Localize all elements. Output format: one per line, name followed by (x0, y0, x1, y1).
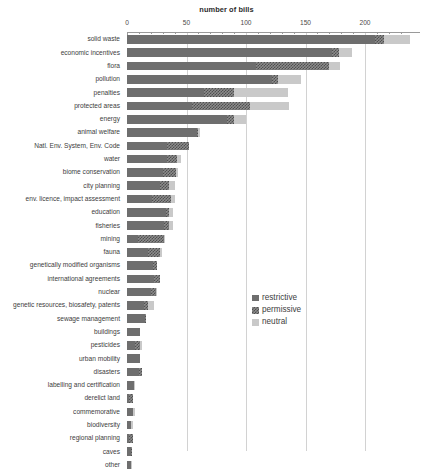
bar-row: nuclear (0, 286, 429, 299)
bar-segment-restrictive (127, 328, 140, 337)
bar-segment-neutral (140, 341, 142, 350)
bar-segment-neutral (329, 62, 340, 71)
legend-item-restrictive[interactable]: restrictive (252, 292, 301, 304)
category-label: buildings (0, 326, 120, 339)
stacked-bar (127, 261, 157, 270)
category-label: biodiversity (0, 419, 120, 432)
x-tick-label-150: 150 (300, 19, 311, 26)
bar-row: economic incentives (0, 46, 429, 59)
bar-segment-neutral (176, 168, 178, 177)
category-label: solid waste (0, 33, 120, 46)
bar-segment-restrictive (127, 142, 167, 151)
bar-segment-permissive (139, 368, 143, 377)
stacked-bar (127, 248, 162, 257)
bar-segment-restrictive (127, 341, 135, 350)
category-label: pesticides (0, 339, 120, 352)
bar-row: disasters (0, 366, 429, 379)
stacked-bar (127, 155, 181, 164)
bar-row: pesticides (0, 339, 429, 352)
bar-segment-permissive (160, 181, 168, 190)
x-axis-tick-labels: 050100150200 (127, 19, 427, 31)
bar-segment-restrictive (127, 155, 167, 164)
bar-segment-restrictive (127, 48, 332, 57)
category-label: international agreements (0, 272, 120, 285)
bar-segment-neutral (133, 408, 135, 417)
category-label: nuclear (0, 286, 120, 299)
legend-swatch-permissive-icon (252, 307, 259, 314)
category-label: other (0, 459, 120, 472)
bar-segment-restrictive (127, 181, 160, 190)
bar-row: energy (0, 113, 429, 126)
bar-segment-permissive (153, 261, 157, 270)
bar-segment-restrictive (127, 75, 272, 84)
bar-segment-restrictive (127, 248, 148, 257)
category-label: genetically modified organisms (0, 259, 120, 272)
bar-segment-neutral (198, 128, 199, 137)
stacked-bar (127, 102, 289, 111)
bar-row: commemorative (0, 405, 429, 418)
category-label: water (0, 153, 120, 166)
category-label: env. licence, impact assessment (0, 193, 120, 206)
bar-segment-restrictive (127, 128, 197, 137)
bar-row: biodiversity (0, 419, 429, 432)
stacked-bar (127, 275, 160, 284)
bar-segment-restrictive (127, 115, 227, 124)
bar-segment-restrictive (127, 381, 134, 390)
category-label: urban mobility (0, 352, 120, 365)
category-label: sewage management (0, 312, 120, 325)
stacked-bar (127, 314, 146, 323)
category-label: fisheries (0, 219, 120, 232)
category-label: animal welfare (0, 126, 120, 139)
stacked-bar (127, 354, 140, 363)
stacked-bar (127, 88, 288, 97)
bar-segment-permissive (154, 275, 160, 284)
bar-segment-neutral (156, 288, 157, 297)
bar-segment-permissive (138, 235, 164, 244)
bar-row: derelict land (0, 392, 429, 405)
bar-segment-permissive (332, 48, 339, 57)
legend-label: restrictive (262, 292, 297, 304)
bar-segment-neutral (169, 208, 174, 217)
bar-segment-restrictive (127, 195, 152, 204)
bar-row: biome conservation (0, 166, 429, 179)
bar-segment-neutral (131, 421, 133, 430)
stacked-bar (127, 168, 178, 177)
stacked-bar (127, 447, 132, 456)
category-label: flora (0, 60, 120, 73)
bar-segment-neutral (160, 248, 161, 257)
stacked-bar (127, 195, 175, 204)
category-label: mining (0, 233, 120, 246)
bar-segment-permissive (167, 155, 177, 164)
bar-row: env. licence, impact assessment (0, 193, 429, 206)
stacked-bar (127, 35, 410, 44)
bar-row: solid waste (0, 33, 429, 46)
category-label: city planning (0, 179, 120, 192)
bar-row: Natl. Env. System, Env. Code (0, 139, 429, 152)
bar-row: pollution (0, 73, 429, 86)
bar-segment-restrictive (127, 235, 138, 244)
bar-segment-neutral (234, 115, 246, 124)
bar-row: water (0, 153, 429, 166)
bar-segment-permissive (227, 115, 234, 124)
bar-segment-permissive (204, 88, 234, 97)
bar-segment-restrictive (127, 275, 154, 284)
stacked-bar (127, 128, 200, 137)
bar-segment-permissive (163, 168, 176, 177)
bar-row: labelling and certification (0, 379, 429, 392)
category-label: genetic resources, biosafety, patents (0, 299, 120, 312)
stacked-bar (127, 434, 133, 443)
category-label: protected areas (0, 100, 120, 113)
stacked-bar (127, 301, 154, 310)
legend-item-neutral[interactable]: neutral (252, 316, 301, 328)
bar-row: animal welfare (0, 126, 429, 139)
bar-row: penalties (0, 86, 429, 99)
bar-segment-restrictive (127, 221, 164, 230)
legend-item-permissive[interactable]: permissive (252, 304, 301, 316)
stacked-bar (127, 341, 142, 350)
bar-segment-restrictive (127, 208, 166, 217)
bar-segment-neutral (134, 381, 135, 390)
legend-swatch-restrictive-icon (252, 295, 259, 302)
bar-row: urban mobility (0, 352, 429, 365)
stacked-bar (127, 181, 175, 190)
